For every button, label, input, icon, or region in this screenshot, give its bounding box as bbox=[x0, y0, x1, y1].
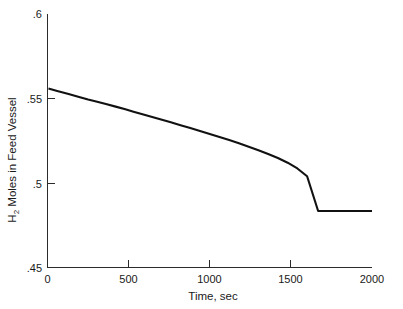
y-axis-title-prefix: H bbox=[6, 214, 18, 222]
x-tick-label-500: 500 bbox=[119, 273, 137, 285]
y-axis-title-suffix: Moles in Feed Vessel bbox=[6, 97, 18, 210]
chart-figure: .6 .55 .5 .45 0 500 1000 1500 2000 Time,… bbox=[0, 0, 403, 309]
line-chart-canvas: .6 .55 .5 .45 0 500 1000 1500 2000 Time,… bbox=[0, 0, 403, 309]
x-tick-label-1000: 1000 bbox=[197, 273, 221, 285]
y-tick-label-0.6: .6 bbox=[33, 8, 42, 20]
chart-background bbox=[0, 0, 403, 309]
x-tick-label-0: 0 bbox=[44, 273, 50, 285]
y-tick-label-0.45: .45 bbox=[27, 262, 42, 274]
y-tick-label-0.5: .5 bbox=[33, 178, 42, 190]
x-axis-title: Time, sec bbox=[188, 290, 238, 302]
x-tick-label-2000: 2000 bbox=[360, 273, 384, 285]
x-tick-label-1500: 1500 bbox=[278, 273, 302, 285]
y-tick-label-0.55: .55 bbox=[27, 93, 42, 105]
